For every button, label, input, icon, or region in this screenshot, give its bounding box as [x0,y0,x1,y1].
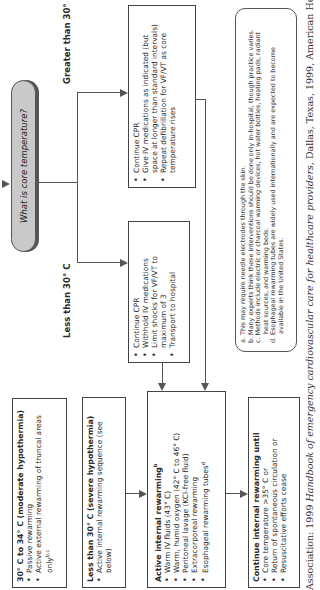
greater-than-30-box: Continue CPR Give IV medications as indi… [128,5,196,188]
greater-branch-label: Greater than 30° C [62,0,72,84]
decision-core-temperature: What is core temperature? [11,80,36,252]
active-internal-rewarming-box: Active internal rewarmingb Warm IV fluid… [147,391,226,588]
greater-to-active-arrowhead-icon [201,383,209,391]
footnote-d: d. Esophageal rewarming tubes are widely… [270,17,285,343]
less-item: Transport to hospital [168,227,177,357]
severe-to-active-arrowhead-icon [139,490,147,498]
decision-stem [38,182,77,183]
severe-item: Active internal rewarming sequence (see … [95,403,113,582]
moderate-item: Active external rewarming of truncal are… [34,404,54,582]
entry-arrowhead-icon [2,180,10,188]
active-item: Extracorporeal rewarming [190,397,199,582]
footnote-c: c. Methods include electric or charcoal … [255,17,270,343]
continue-title: Continue internal rewarming until [252,403,261,582]
continue-item: Core temperature >35° C or [261,403,270,582]
less-arrowhead-icon [120,259,128,267]
branch-bar [77,92,78,263]
continue-item: Resuscitative efforts cease [279,403,288,582]
active-title: Active internal rewarmingb [151,397,163,582]
active-item: Peritoneal lavage (KCl-free fluid) [181,397,190,582]
active-to-continue-arrowhead-icon [240,490,248,498]
decision-question: What is core temperature? [19,109,29,223]
continue-item: Return of spontaneous circulation or [270,403,279,582]
severe-to-active-line [126,493,140,494]
less-than-30-box: Continue CPR Withhold IV medications Lim… [128,221,190,363]
greater-branch-line [77,92,122,93]
active-to-continue-line [226,493,240,494]
greater-arrowhead-icon [120,89,128,97]
greater-item: Repeat defibrillation for VF/VT as core … [159,11,177,182]
active-item: Warm, humid oxygen (42° C to 46° C) [172,397,181,582]
less-to-active-arrowhead-icon [158,383,166,391]
footnotes-box: a. This may require needle electrodes th… [235,8,297,352]
active-item: Esophageal rewarming tubesd [199,397,210,582]
less-branch-line [77,262,122,263]
severe-title: Less than 30° C (severe hypothermia) [86,403,95,582]
severe-hypothermia-box: Less than 30° C (severe hypothermia) Act… [82,397,126,588]
citation: Association: 1999 Handbook of emergency … [304,0,315,590]
active-item: Warm IV fluids (43° C) [163,397,172,582]
less-to-active-line [162,363,163,384]
less-item: Withhold IV medications [141,227,150,357]
moderate-hypothermia-box: 30° C to 34° C (moderate hypothermia) Pa… [12,398,67,588]
less-item: Continue CPR [132,227,141,357]
greater-item: Continue CPR [132,11,141,182]
moderate-item: Passive rewarming [25,404,34,582]
greater-item: Give IV medications as indicated (but sp… [141,11,159,182]
moderate-title: 30° C to 34° C (moderate hypothermia) [16,404,25,582]
less-branch-label: Less than 30° C [62,264,72,338]
less-item: Limit shocks for VF/VT to maximum of 3 [150,227,168,357]
continue-rewarming-box: Continue internal rewarming until Core t… [248,397,300,588]
greater-to-active-line [205,100,206,384]
